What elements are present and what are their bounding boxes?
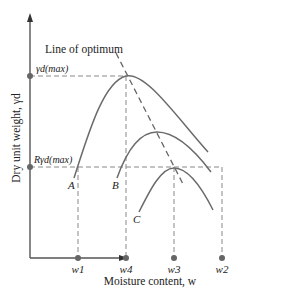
r-gamma-max-dot — [27, 164, 33, 170]
y-axis-label: Dry unit weight, γd — [10, 93, 23, 183]
curve-c — [139, 168, 213, 212]
curve-c-label: C — [133, 213, 141, 225]
reference-lines — [30, 76, 222, 258]
curve-b-label: B — [112, 179, 119, 191]
r-gamma-max-label: Rγd(max) — [33, 154, 73, 166]
gamma-max-dot — [27, 73, 33, 79]
w2-dot — [219, 255, 225, 261]
curve-a-label: A — [67, 179, 75, 191]
w1-label: w1 — [72, 263, 85, 275]
w4-dot — [123, 255, 129, 261]
w3-label: w3 — [168, 263, 181, 275]
x-axis-label: Moisture content, w — [104, 275, 197, 288]
curve-a — [74, 76, 208, 178]
compaction-diagram: Line of optimum γd(max) Rγd(max) Dry uni… — [0, 0, 281, 300]
gamma-max-label: γd(max) — [36, 63, 69, 75]
line-of-optimum-label: Line of optimum — [45, 43, 123, 56]
w3-dot — [171, 255, 177, 261]
w4-label: w4 — [120, 263, 133, 275]
y-axis-arrow-icon — [27, 13, 33, 22]
w1-dot — [75, 255, 81, 261]
w2-label: w2 — [216, 263, 229, 275]
